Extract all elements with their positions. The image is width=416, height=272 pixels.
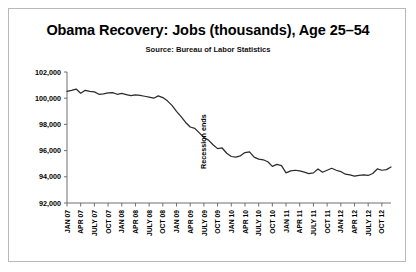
x-tick-label: JAN 10 [228,210,235,233]
y-tick-label: 94,000 [39,172,61,181]
x-tick-label: JAN 09 [173,210,180,233]
chart-figure: Obama Recovery: Jobs (thousands), Age 25… [8,8,406,262]
y-axis: 92,00094,00096,00098,000100,000102,000 [35,68,67,208]
data-series [67,89,391,176]
x-tick-label: JULY 07 [91,210,98,236]
x-tick-label: JULY 09 [201,210,208,236]
x-tick-label: JULY 10 [255,210,262,236]
x-tick-label: OCT 08 [159,210,166,234]
x-tick-label: JAN 08 [118,210,125,233]
line-chart-plot: 92,00094,00096,00098,000100,000102,000 J… [9,9,407,263]
x-tick-label: APR 12 [351,210,358,234]
x-axis: JAN 07APR 07JULY 07OCT 07JAN 08APR 08JUL… [64,203,391,236]
annotation-text: Recession ends [199,114,208,169]
employment-line [67,89,391,176]
x-tick-label: JAN 12 [337,210,344,233]
x-tick-label: OCT 10 [269,210,276,234]
y-tick-label: 102,000 [35,68,61,77]
y-tick-label: 92,000 [39,199,61,208]
x-tick-label: APR 08 [132,210,139,234]
x-tick-label: JULY 11 [310,210,317,236]
x-tick-label: JULY 12 [365,210,372,236]
y-tick-label: 96,000 [39,146,61,155]
y-tick-label: 98,000 [39,120,61,129]
y-tick-label: 100,000 [35,94,61,103]
x-tick-label: OCT 11 [324,210,331,234]
x-tick-label: JAN 11 [283,210,290,233]
x-tick-label: APR 10 [242,210,249,234]
x-tick-label: APR 09 [187,210,194,234]
x-tick-label: JAN 07 [64,210,71,233]
x-tick-label: OCT 09 [214,210,221,234]
x-tick-label: APR 11 [296,210,303,234]
x-tick-label: APR 07 [77,210,84,234]
x-tick-label: OCT 07 [105,210,112,234]
x-tick-label: OCT 12 [378,210,385,234]
recession-ends-annotation: Recession ends [199,114,208,169]
x-tick-label: JULY 08 [146,210,153,236]
